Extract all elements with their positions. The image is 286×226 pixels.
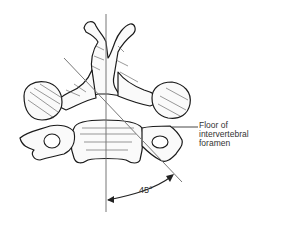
angle-label: 45° bbox=[139, 186, 153, 195]
label-line-3: foramen bbox=[199, 139, 249, 148]
arrow-right-icon bbox=[166, 174, 174, 182]
vertebral-body bbox=[71, 120, 143, 163]
right-transverse-foramen bbox=[152, 136, 168, 148]
left-articular-facet bbox=[24, 82, 62, 120]
left-lamina bbox=[58, 70, 96, 110]
arrow-left-icon bbox=[107, 196, 114, 203]
floor-of-intervertebral-foramen-label: Floor of intervertebral foramen bbox=[199, 121, 249, 148]
right-articular-facet bbox=[152, 82, 190, 118]
angled-line bbox=[64, 58, 182, 182]
left-transverse-foramen bbox=[44, 134, 60, 148]
